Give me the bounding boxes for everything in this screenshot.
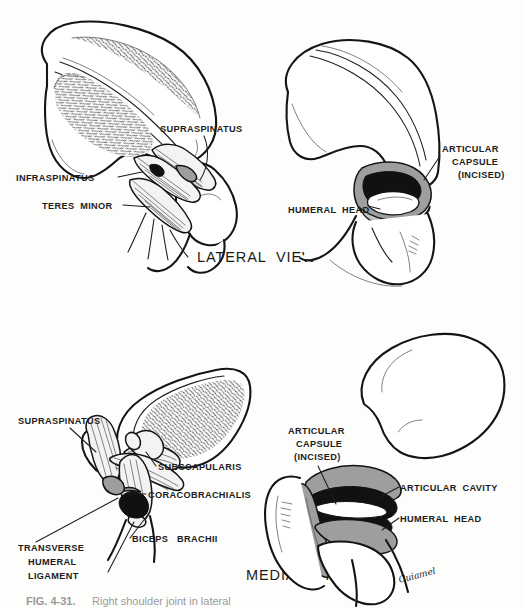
label-articular-capsule-lateral-l3: (INCISED) <box>458 170 505 180</box>
label-infraspinatus-lateral: INFRASPINATUS <box>16 173 94 183</box>
anatomy-figure-plate: SUPRASPINATUS INFRASPINATUS TERES MINOR … <box>0 0 524 608</box>
label-teres-minor-lateral: TERES MINOR <box>42 201 113 211</box>
label-articular-capsule-medial-l3: (INCISED) <box>294 452 341 462</box>
label-articular-capsule-medial-l1: ARTICULAR <box>288 426 345 436</box>
label-articular-cavity: ARTICULAR CAVITY <box>400 483 498 493</box>
label-biceps-brachii: BICEPS BRACHII <box>132 534 218 544</box>
label-articular-capsule-medial-l2: CAPSULE <box>296 439 342 449</box>
label-supraspinatus-lateral: SUPRASPINATUS <box>160 124 242 134</box>
label-transverse-l3: LIGAMENT <box>28 571 79 581</box>
label-coracobrachialis: CORACOBRACHIALIS <box>148 490 251 500</box>
label-subscapularis: SUBSCAPULARIS <box>158 462 242 472</box>
label-transverse-l2: HUMERAL <box>28 557 76 567</box>
label-transverse-l1: TRANSVERSE <box>18 543 84 553</box>
caption-number: FIG. 4-31. <box>26 595 76 607</box>
label-articular-capsule-lateral-l1: ARTICULAR <box>442 144 499 154</box>
label-articular-capsule-lateral-l2: CAPSULE <box>452 157 498 167</box>
view-label-lateral: LATERAL VIEW <box>197 249 317 265</box>
label-humeral-head-medial: HUMERAL HEAD <box>400 514 481 524</box>
caption-text: Right shoulder joint in lateral <box>92 595 231 607</box>
label-supraspinatus-medial: SUPRASPINATUS <box>18 416 100 426</box>
figure-caption: FIG. 4-31. Right shoulder joint in later… <box>26 595 231 607</box>
humeral-head-lateral <box>368 192 419 215</box>
label-humeral-head-lateral: HUMERAL HEAD <box>288 205 369 215</box>
